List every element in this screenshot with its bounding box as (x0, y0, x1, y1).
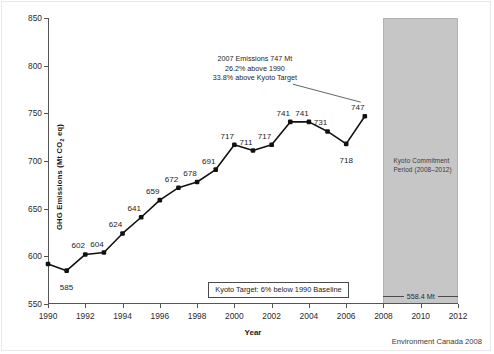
x-tick (272, 304, 273, 308)
x-tick-label: 2002 (262, 311, 281, 321)
y-tick-label: 700 (28, 156, 42, 166)
y-tick-label: 600 (28, 251, 42, 261)
y-tick-label: 850 (28, 13, 42, 23)
x-tick-label: 2004 (300, 311, 319, 321)
x-tick (197, 304, 198, 308)
y-tick-label: 750 (28, 108, 42, 118)
y-tick-label: 800 (28, 61, 42, 71)
x-tick (309, 304, 310, 308)
ghg-emissions-chart-figure: GHG Emissions (Mt CO2 eq) Year Kyoto Com… (0, 0, 494, 354)
x-tick (123, 304, 124, 308)
x-tick (383, 304, 384, 308)
x-tick (160, 304, 161, 308)
x-tick-label: 1994 (113, 311, 132, 321)
source-credit: Environment Canada 2008 (392, 337, 482, 346)
x-tick (48, 304, 49, 308)
x-tick-label: 2006 (337, 311, 356, 321)
x-tick-label: 1998 (188, 311, 207, 321)
x-tick-label: 2000 (225, 311, 244, 321)
kyoto-target-callout: Kyoto Target: 6% below 1990 Baseline (208, 282, 348, 298)
x-tick-label: 2008 (374, 311, 393, 321)
x-tick-label: 1996 (150, 311, 169, 321)
x-tick (346, 304, 347, 308)
x-tick (458, 304, 459, 308)
annotation-leader-line (48, 18, 458, 304)
plot-area: Kyoto CommitmentPeriod (2008–2012) 55060… (48, 18, 458, 304)
x-tick-label: 1992 (76, 311, 95, 321)
y-tick-label: 650 (28, 204, 42, 214)
x-tick-label: 2010 (411, 311, 430, 321)
y-tick-label: 550 (28, 299, 42, 309)
x-tick (85, 304, 86, 308)
x-tick-label: 2012 (449, 311, 468, 321)
x-tick (421, 304, 422, 308)
x-axis-title: Year (48, 328, 458, 337)
x-tick (234, 304, 235, 308)
leader-line (293, 84, 361, 102)
x-tick-label: 1990 (39, 311, 58, 321)
